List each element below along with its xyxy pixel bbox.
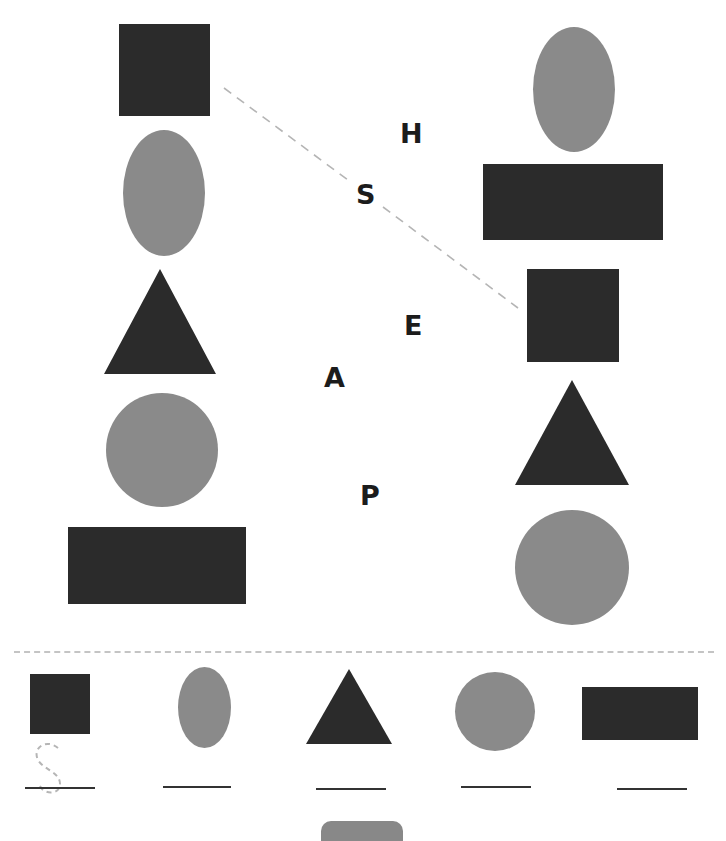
letter-p: P	[360, 482, 380, 509]
letter-h: H	[400, 120, 423, 147]
left-oval[interactable]	[123, 130, 205, 256]
left-rectangle[interactable]	[68, 527, 246, 604]
answer-circle	[455, 672, 535, 751]
letter-s: S	[356, 181, 375, 208]
answer-triangle	[306, 669, 392, 744]
answer-oval	[178, 667, 231, 748]
right-circle[interactable]	[515, 510, 629, 625]
left-square[interactable]	[119, 24, 210, 116]
answer-line-2[interactable]	[163, 786, 231, 788]
answer-line-3[interactable]	[316, 788, 386, 790]
trace-letter-s	[37, 744, 60, 793]
left-circle[interactable]	[106, 393, 218, 507]
right-square[interactable]	[527, 269, 619, 362]
letter-a: A	[324, 364, 345, 391]
answer-line-4[interactable]	[461, 786, 531, 788]
right-oval[interactable]	[533, 27, 615, 152]
answer-line-1[interactable]	[25, 787, 95, 789]
right-rectangle[interactable]	[483, 164, 663, 240]
section-divider	[14, 651, 714, 653]
left-triangle[interactable]	[104, 269, 216, 374]
bottom-tab[interactable]	[321, 821, 403, 841]
right-triangle[interactable]	[515, 380, 629, 485]
letter-e: E	[404, 312, 422, 339]
answer-line-5[interactable]	[617, 788, 687, 790]
answer-square	[30, 674, 90, 734]
answer-rectangle	[582, 687, 698, 740]
